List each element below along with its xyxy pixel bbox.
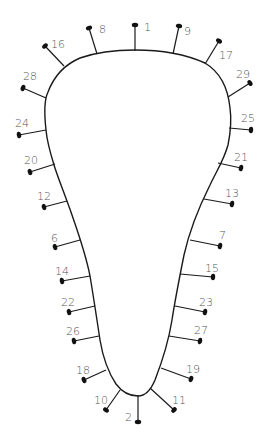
- pin-9: 9: [173, 23, 191, 54]
- pin-number-label: 2: [125, 411, 132, 424]
- shape-outline: [45, 50, 231, 396]
- pin-10: 10: [94, 390, 120, 414]
- pin-2: 2: [125, 395, 141, 424]
- pin-12: 12: [37, 190, 67, 211]
- pin-24: 24: [15, 117, 46, 139]
- pin-head-icon: [229, 200, 234, 207]
- pins-group: 1891617282924252021121367141522232627181…: [15, 21, 255, 424]
- pin-line: [150, 388, 174, 410]
- pin-number-label: 23: [199, 296, 213, 309]
- pin-line: [89, 28, 97, 54]
- pin-6: 6: [51, 232, 80, 251]
- pin-number-label: 13: [225, 187, 239, 200]
- pin-19: 19: [161, 363, 200, 383]
- pin-number-label: 22: [61, 296, 75, 309]
- pin-line: [190, 240, 220, 246]
- pin-13: 13: [204, 187, 239, 208]
- pin-head-icon: [215, 37, 223, 44]
- pin-head-icon: [188, 375, 194, 383]
- pin-number-label: 12: [37, 190, 51, 203]
- pin-17: 17: [205, 37, 233, 64]
- pin-27: 27: [169, 324, 208, 345]
- pin-head-icon: [238, 164, 244, 171]
- pin-number-label: 21: [234, 151, 248, 164]
- pin-head-icon: [217, 242, 223, 249]
- pin-26: 26: [66, 325, 99, 345]
- pin-number-label: 26: [66, 325, 80, 338]
- pin-head-icon: [249, 127, 254, 134]
- pin-head-icon: [16, 131, 21, 138]
- pin-head-icon: [41, 203, 47, 210]
- pin-29: 29: [228, 68, 254, 97]
- pin-head-icon: [175, 23, 182, 29]
- pin-11: 11: [150, 388, 186, 414]
- pin-16: 16: [41, 38, 65, 66]
- pin-line: [23, 88, 46, 98]
- pin-number-label: 6: [51, 232, 58, 245]
- pin-number-label: 10: [94, 394, 108, 407]
- pin-20: 20: [24, 154, 55, 176]
- pin-number-label: 25: [241, 112, 255, 125]
- pin-22: 22: [61, 296, 95, 316]
- pin-head-icon: [59, 277, 64, 284]
- pin-28: 28: [20, 70, 46, 98]
- pin-number-label: 14: [55, 265, 69, 278]
- pin-line: [55, 240, 80, 247]
- pin-number-label: 17: [219, 49, 233, 62]
- pin-number-label: 18: [76, 364, 90, 377]
- pin-number-label: 27: [194, 324, 208, 337]
- pin-head-icon: [81, 376, 88, 384]
- pin-head-icon: [135, 420, 141, 424]
- pin-15: 15: [180, 262, 219, 280]
- diagram-canvas: 1891617282924252021121367141522232627181…: [0, 0, 266, 448]
- pin-number-label: 15: [205, 262, 219, 275]
- pin-head-icon: [27, 168, 33, 175]
- pin-line: [229, 128, 251, 130]
- pin-head-icon: [85, 25, 92, 31]
- pin-25: 25: [229, 112, 255, 133]
- pin-head-icon: [197, 337, 202, 344]
- pin-7: 7: [190, 229, 226, 250]
- pin-head-icon: [71, 337, 77, 344]
- pin-number-label: 16: [51, 38, 65, 51]
- pin-number-label: 8: [99, 23, 106, 36]
- pin-8: 8: [85, 23, 106, 54]
- pin-number-label: 24: [15, 117, 29, 130]
- pin-head-icon: [102, 406, 110, 413]
- pin-number-label: 1: [144, 21, 151, 34]
- pin-head-icon: [132, 23, 138, 27]
- pin-line: [19, 130, 46, 135]
- pin-1: 1: [132, 21, 151, 51]
- pin-head-icon: [20, 84, 27, 92]
- pin-head-icon: [66, 308, 72, 315]
- pin-number-label: 9: [184, 25, 191, 38]
- pin-number-label: 7: [219, 229, 226, 242]
- pin-14: 14: [55, 265, 90, 285]
- pin-number-label: 19: [186, 363, 200, 376]
- pin-line: [228, 83, 250, 97]
- pin-18: 18: [76, 364, 106, 384]
- pin-23: 23: [175, 296, 213, 316]
- pin-line: [173, 26, 179, 54]
- pin-number-label: 11: [172, 394, 186, 407]
- pin-line: [205, 41, 219, 64]
- pin-diagram: 1891617282924252021121367141522232627181…: [0, 0, 266, 448]
- pin-number-label: 28: [23, 70, 37, 83]
- pin-head-icon: [202, 308, 208, 315]
- pin-line: [106, 390, 120, 410]
- pin-number-label: 20: [24, 154, 38, 167]
- pin-number-label: 29: [236, 68, 250, 81]
